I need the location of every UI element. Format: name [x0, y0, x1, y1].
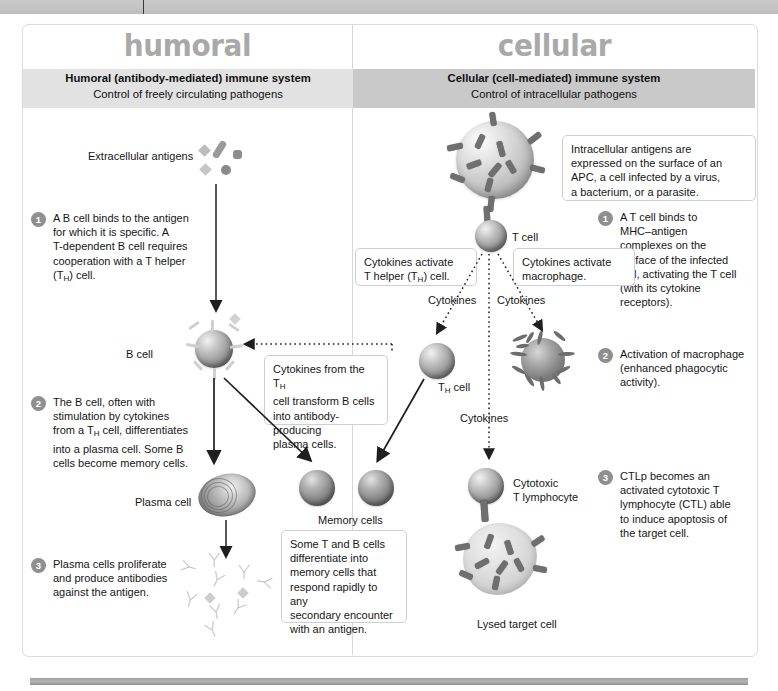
memory-cells-label: Memory cells — [318, 514, 383, 528]
humoral-big-title: humoral — [22, 27, 353, 63]
cellular-step-2-badge: 2 — [598, 348, 613, 363]
memory-cell-icon-1 — [299, 470, 335, 506]
extracellular-antigens-label: Extracellular antigens — [88, 150, 193, 164]
humoral-step-2-badge: 2 — [31, 396, 46, 411]
th-cell-icon — [419, 343, 455, 379]
callout-cytokines-activate-t-helper: Cytokines activate T helper (TH) cell. — [355, 248, 477, 286]
humoral-step-3-badge: 3 — [31, 558, 46, 573]
humoral-step-1-text: A B cell binds to the antigen for which … — [53, 211, 243, 286]
ctl-target-bridge-icon — [480, 500, 489, 522]
b-cell-receptor-icon — [211, 320, 214, 332]
humoral-header-line2: Control of freely circulating pathogens — [23, 88, 353, 100]
scan-top-bar — [0, 0, 778, 14]
th-cell-label: TH cell — [438, 381, 470, 398]
cytokines-label-left: Cytokines — [428, 294, 476, 308]
b-cell-label: B cell — [126, 348, 153, 362]
humoral-header-line1: Humoral (antibody-mediated) immune syste… — [23, 72, 353, 84]
t-cell-icon — [475, 220, 507, 252]
lysed-target-cell-label: Lysed target cell — [477, 618, 557, 632]
antibody-icon: Y — [238, 560, 250, 584]
cellular-step-1-badge: 1 — [598, 211, 613, 226]
callout-intracellular-antigens: Intracellular antigens are expressed on … — [562, 135, 756, 201]
scan-tick-mark — [143, 0, 144, 14]
humoral-header-band: Humoral (antibody-mediated) immune syste… — [23, 69, 353, 108]
cytokines-label-right: Cytokines — [497, 294, 545, 308]
cellular-step-3-text: CTLp becomes an activated cytotoxic T ly… — [620, 469, 760, 540]
cellular-step-3-badge: 3 — [598, 470, 613, 485]
cellular-big-title: cellular — [353, 27, 756, 63]
memory-cell-icon-2 — [358, 470, 394, 506]
t-cell-label: T cell — [512, 231, 538, 245]
scan-bottom-bar — [30, 678, 748, 685]
callout-cytokines-transform-b-cells: Cytokines from the TH cell transform B c… — [264, 355, 388, 425]
cytotoxic-t-lymphocyte-icon — [468, 468, 504, 504]
b-cell-icon — [195, 330, 233, 368]
humoral-step-1-badge: 1 — [31, 212, 46, 227]
cellular-header-line2: Control of intracellular pathogens — [353, 88, 755, 100]
b-cell-receptor-icon — [213, 368, 216, 380]
plasma-cell-label: Plasma cell — [135, 496, 191, 510]
callout-cytokines-activate-macrophage: Cytokines activate macrophage. — [513, 248, 635, 286]
cellular-step-2-text: Activation of macrophage (enhanced phago… — [620, 347, 765, 390]
cytokines-label-lower: Cytokines — [460, 412, 508, 426]
humoral-step-3-text: Plasma cells proliferate and produce ant… — [53, 557, 233, 600]
antigen-round-icon — [221, 165, 231, 175]
ctl-label-line2: T lymphocyte — [513, 491, 578, 505]
cellular-header-band: Cellular (cell-mediated) immune system C… — [353, 69, 755, 108]
apc-cell-icon — [456, 121, 534, 199]
ctl-label-line1: Cytotoxic — [513, 477, 558, 491]
humoral-step-2-text: The B cell, often with stimulation by cy… — [53, 395, 248, 470]
cellular-header-line1: Cellular (cell-mediated) immune system — [353, 72, 755, 84]
cellular-step-1-text: A T cell binds to MHC–antigen complexes … — [620, 210, 760, 309]
callout-memory-cells-note: Some T and B cells differentiate into me… — [281, 530, 407, 623]
antigen-hex-icon — [233, 150, 242, 159]
